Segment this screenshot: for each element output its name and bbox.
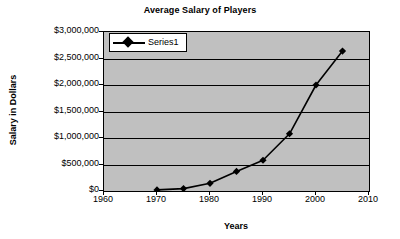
y-axis-tick-mark <box>99 164 103 165</box>
series-line-group <box>153 47 346 191</box>
y-axis-tick-mark <box>99 58 103 59</box>
x-axis-tick-label: 1970 <box>126 195 186 204</box>
plot-svg <box>104 32 369 191</box>
legend-entry-series1: Series1 <box>110 34 186 51</box>
plot-area <box>103 31 370 192</box>
y-axis-tick-label: $0 <box>3 185 99 194</box>
y-axis-tick-label: $1,500,000 <box>3 106 99 115</box>
series-markers-series1 <box>153 47 346 191</box>
legend-marker <box>113 37 145 48</box>
y-axis-tick-mark <box>99 31 103 32</box>
x-axis-tick-mark <box>368 191 369 195</box>
y-axis-tick-mark <box>99 137 103 138</box>
x-axis-tick-label: 1960 <box>73 195 133 204</box>
x-axis-tick-mark <box>156 191 157 195</box>
x-axis-tick-label: 1980 <box>179 195 239 204</box>
legend-label: Series1 <box>148 38 179 47</box>
data-point-marker <box>233 168 240 175</box>
x-axis-title: Years <box>103 221 369 231</box>
x-axis-tick-label: 2010 <box>338 195 398 204</box>
data-point-marker <box>180 185 187 191</box>
y-axis-tick-label: $500,000 <box>3 159 99 168</box>
x-axis-tick-labels: 196019701980199020002010 <box>0 195 400 209</box>
x-axis-tick-label: 1990 <box>232 195 292 204</box>
x-axis-tick-mark <box>262 191 263 195</box>
x-axis-tick-mark <box>315 191 316 195</box>
diamond-marker-icon <box>122 36 133 47</box>
x-axis-tick-label: 2000 <box>285 195 345 204</box>
x-axis-tick-mark <box>103 191 104 195</box>
chart-legend: Series1 <box>109 33 187 52</box>
y-axis-tick-label: $2,000,000 <box>3 79 99 88</box>
data-point-marker <box>153 186 160 191</box>
chart-container: Average Salary of Players Salary in Doll… <box>0 0 400 239</box>
gridlines <box>104 60 369 166</box>
y-axis-tick-mark <box>99 84 103 85</box>
y-axis-tick-label: $2,500,000 <box>3 53 99 62</box>
x-axis-tick-mark <box>209 191 210 195</box>
y-axis-tick-label: $3,000,000 <box>3 26 99 35</box>
series-line-series1 <box>157 51 343 190</box>
y-axis-tick-label: $1,000,000 <box>3 132 99 141</box>
data-point-marker <box>206 180 213 187</box>
y-axis-tick-mark <box>99 111 103 112</box>
